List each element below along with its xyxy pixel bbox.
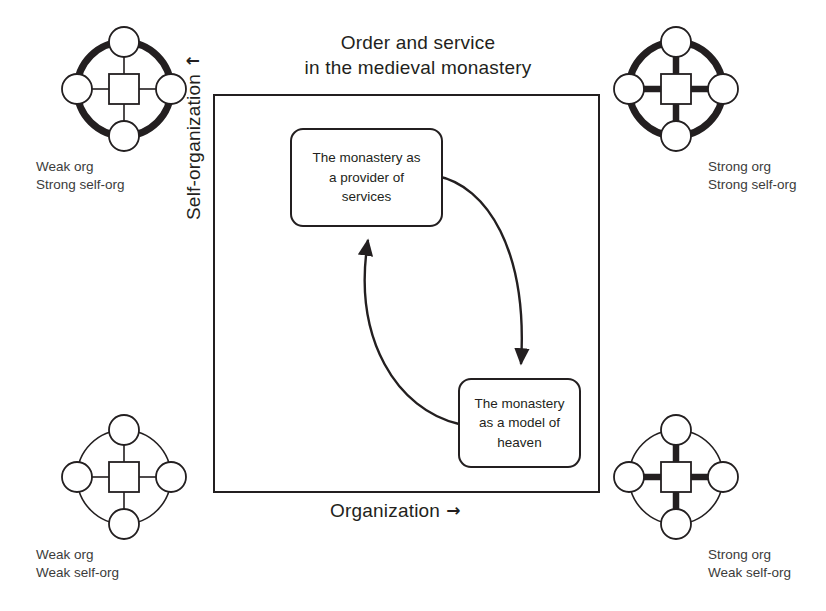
figure-title-line-2: in the medieval monastery — [258, 55, 578, 80]
corner-strong-org-strong-self-org: Strong org Strong self-org — [588, 24, 808, 194]
concept-box-line-3: services — [312, 187, 420, 207]
corner-weak-org-weak-self-org: Weak org Weak self-org — [18, 412, 238, 582]
concept-box-provider-of-services[interactable]: The monastery as a provider of services — [290, 128, 443, 227]
figure-title: Order and service in the medieval monast… — [258, 30, 578, 80]
concept-box-line-3: heaven — [474, 433, 564, 453]
corner-weak-org-strong-self-org: Weak org Strong self-org — [18, 24, 238, 194]
corner-caption-line-1: Strong org — [708, 546, 808, 564]
concept-box-line-1: The monastery — [474, 394, 564, 414]
corner-caption: Strong org Strong self-org — [708, 158, 808, 194]
corner-caption: Weak org Weak self-org — [36, 546, 238, 582]
corner-caption-line-2: Weak self-org — [36, 564, 238, 582]
corner-caption-line-2: Strong self-org — [36, 176, 238, 194]
ring-hub-spokes-icon — [608, 412, 744, 542]
diagram-canvas: Order and service in the medieval monast… — [0, 0, 826, 611]
corner-caption: Weak org Strong self-org — [36, 158, 238, 194]
corner-caption-line-1: Strong org — [708, 158, 808, 176]
ring-hub-spokes-icon — [56, 24, 192, 154]
corner-caption-line-1: Weak org — [36, 158, 238, 176]
ring-hub-spokes-icon — [56, 412, 192, 542]
concept-box-model-of-heaven[interactable]: The monastery as a model of heaven — [458, 378, 581, 468]
x-axis-label-text: Organization — [330, 500, 440, 521]
concept-box-line-2: a provider of — [312, 168, 420, 188]
x-axis-arrow-icon: → — [440, 500, 460, 520]
figure-title-line-1: Order and service — [258, 30, 578, 55]
corner-caption-line-2: Strong self-org — [708, 176, 808, 194]
corner-caption-line-2: Weak self-org — [708, 564, 808, 582]
corner-caption-line-1: Weak org — [36, 546, 238, 564]
corner-caption: Strong org Weak self-org — [708, 546, 808, 582]
x-axis-label: Organization→ — [330, 500, 461, 522]
ring-hub-spokes-icon — [608, 24, 744, 154]
corner-strong-org-weak-self-org: Strong org Weak self-org — [588, 412, 808, 582]
concept-box-line-2: as a model of — [474, 413, 564, 433]
concept-box-line-1: The monastery as — [312, 148, 420, 168]
